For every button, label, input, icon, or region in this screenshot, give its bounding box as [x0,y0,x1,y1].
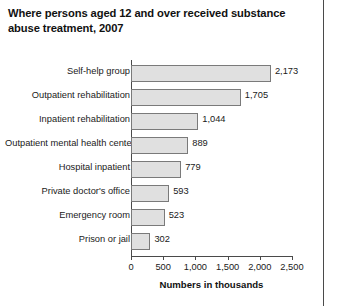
x-tick-mark [292,256,293,260]
bar-container [131,65,271,82]
category-label: Hospital inpatient [5,162,130,173]
bar-container [131,161,181,178]
category-label: Private doctor's office [5,186,130,197]
bar-container [131,185,169,202]
bar-container [131,137,188,154]
page-gutter-rule [323,0,324,306]
bar-row: Private doctor's office593 [0,182,323,206]
bar-value-label: 779 [185,162,201,173]
x-tick-label: 500 [155,262,171,273]
chart-figure: Where persons aged 12 and over received … [0,0,337,306]
bar-value-label: 523 [169,210,185,221]
bar-value-label: 302 [154,234,170,245]
bar-container [131,89,241,106]
x-tick-label: 2,000 [248,262,271,273]
bar-row: Hospital inpatient779 [0,158,323,182]
bar [131,185,169,202]
x-tick-label: 1,000 [184,262,207,273]
x-axis-title: Numbers in thousands [131,279,292,290]
x-tick-mark [260,256,261,260]
bar-container [131,113,198,130]
bar [131,113,198,130]
plot-area: Self-help group2,173Outpatient rehabilit… [0,60,323,306]
x-tick-label: 1,500 [216,262,239,273]
x-tick-label: 0 [128,262,133,273]
x-tick-mark [131,256,132,260]
bar [131,209,165,226]
category-label: Outpatient mental health center [5,138,130,149]
bar-value-label: 889 [192,138,208,149]
bar-value-label: 1,044 [202,114,225,125]
bar [131,89,241,106]
bar-rows: Self-help group2,173Outpatient rehabilit… [0,62,323,254]
x-tick-label: 2,500 [280,262,303,273]
bar [131,161,181,178]
category-label: Self-help group [5,66,130,77]
bar-value-label: 2,173 [275,66,298,77]
bar-row: Inpatient rehabilitation1,044 [0,110,323,134]
bar-row: Emergency room523 [0,206,323,230]
category-label: Outpatient rehabilitation [5,90,130,101]
category-label: Emergency room [5,210,130,221]
bar-value-label: 1,705 [245,90,268,101]
x-axis-line [131,256,292,257]
bar-row: Self-help group2,173 [0,62,323,86]
bar-container [131,233,150,250]
category-label: Prison or jail [5,234,130,245]
bar-row: Prison or jail302 [0,230,323,254]
x-tick-mark [163,256,164,260]
x-tick-mark [195,256,196,260]
bar [131,233,150,250]
chart-title: Where persons aged 12 and over received … [8,6,308,35]
bar [131,137,188,154]
x-tick-mark [228,256,229,260]
bar-row: Outpatient mental health center889 [0,134,323,158]
bar-row: Outpatient rehabilitation1,705 [0,86,323,110]
bar [131,65,271,82]
category-label: Inpatient rehabilitation [5,114,130,125]
bar-container [131,209,165,226]
bar-value-label: 593 [173,186,189,197]
